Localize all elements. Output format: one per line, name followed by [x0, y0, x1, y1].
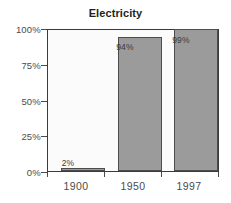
y-axis-tick-label: 75% [1, 59, 41, 70]
bar-value-1900: 2% [48, 158, 88, 168]
bar-1950[interactable] [118, 37, 162, 171]
y-axis-tick-label: 25% [1, 131, 41, 142]
x-axis-tick-mark [161, 172, 162, 177]
y-axis-tick-label: 50% [1, 95, 41, 106]
bar-value-1997: 99% [161, 35, 201, 45]
y-axis-tick-label: 0% [1, 167, 41, 178]
bar-value-1950: 94% [105, 42, 145, 52]
x-axis-tick-mark [104, 172, 105, 177]
x-axis-label-1997: 1997 [159, 180, 219, 192]
y-axis-tick-label: 100% [1, 24, 41, 35]
chart-figure: Electricity 100% 75% 50% 25% 0% 2% 94% 9… [0, 0, 231, 203]
bar-1997[interactable] [174, 29, 218, 171]
x-axis-tick-mark [47, 172, 48, 177]
x-axis-label-1900: 1900 [46, 180, 106, 192]
x-axis-label-1950: 1950 [103, 180, 163, 192]
bar-1900[interactable] [61, 168, 105, 172]
x-axis-tick-mark [218, 172, 219, 177]
chart-title: Electricity [0, 7, 231, 19]
